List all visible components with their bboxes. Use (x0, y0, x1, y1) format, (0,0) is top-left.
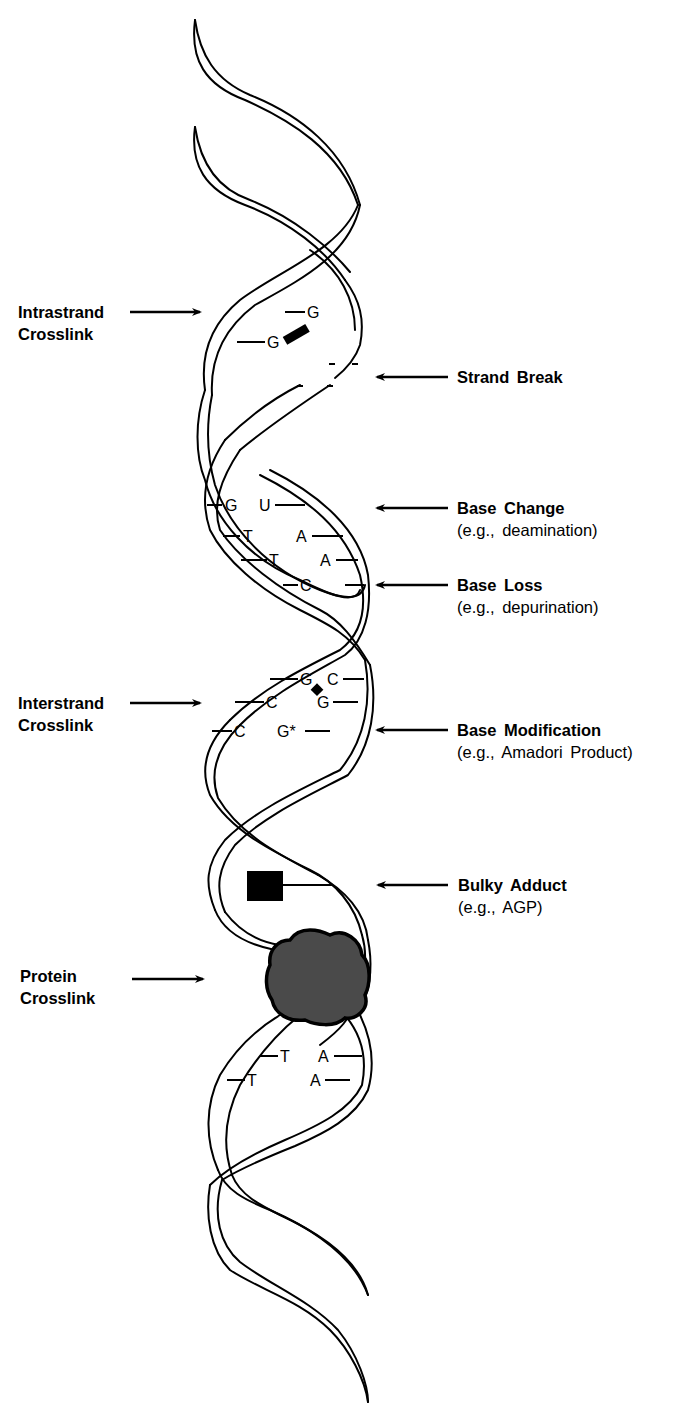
label-bulky-adduct: Bulky Adduct (e.g., AGP) (458, 874, 567, 918)
svg-text:A: A (320, 552, 331, 569)
svg-text:G: G (225, 497, 237, 514)
svg-text:G: G (300, 671, 312, 688)
svg-text:T: T (243, 528, 253, 545)
svg-text:A: A (318, 1048, 329, 1065)
protein-blob (266, 930, 369, 1025)
label-strand-break: Strand Break (457, 366, 563, 388)
label-interstrand-crosslink: Interstrand Crosslink (18, 692, 104, 736)
helix-segment-1 (204, 205, 362, 450)
helix-strand-a (194, 20, 360, 205)
helix-segment-2 (198, 390, 371, 725)
svg-text:T: T (280, 1048, 290, 1065)
helix-bottom-ends (208, 1170, 368, 1402)
svg-text:T: T (269, 552, 279, 569)
svg-text:C: C (327, 671, 339, 688)
svg-text:C: C (266, 694, 278, 711)
strand-break-ends (297, 364, 358, 386)
svg-text:G*: G* (277, 723, 296, 740)
svg-text:A: A (296, 528, 307, 545)
label-protein-crosslink: Protein Crosslink (20, 965, 95, 1009)
label-base-change: Base Change (e.g., deamination) (457, 497, 598, 541)
svg-text:A: A (310, 1072, 321, 1089)
lower-bases: T A T A (227, 1048, 362, 1089)
base-change-bases: G U T A T A C (207, 497, 364, 594)
svg-text:T: T (247, 1072, 257, 1089)
crosslink-bar (283, 324, 310, 345)
base-g-2: G (267, 334, 279, 351)
svg-text:C: C (234, 723, 246, 740)
helix-strand-b (194, 127, 350, 280)
intrastrand-bases: G G (237, 304, 319, 351)
svg-text:U: U (259, 497, 271, 514)
svg-text:C: C (300, 577, 312, 594)
label-base-loss: Base Loss (e.g., depurination) (457, 574, 599, 618)
label-intrastrand-crosslink: Intrastrand Crosslink (18, 301, 104, 345)
dna-damage-figure: G G G U T A T A C (0, 0, 684, 1423)
base-g-1: G (307, 304, 319, 321)
interstrand-bases: G C C G C G* (212, 671, 364, 740)
label-base-modification: Base Modification (e.g., Amadori Product… (457, 719, 633, 763)
svg-text:G: G (317, 694, 329, 711)
